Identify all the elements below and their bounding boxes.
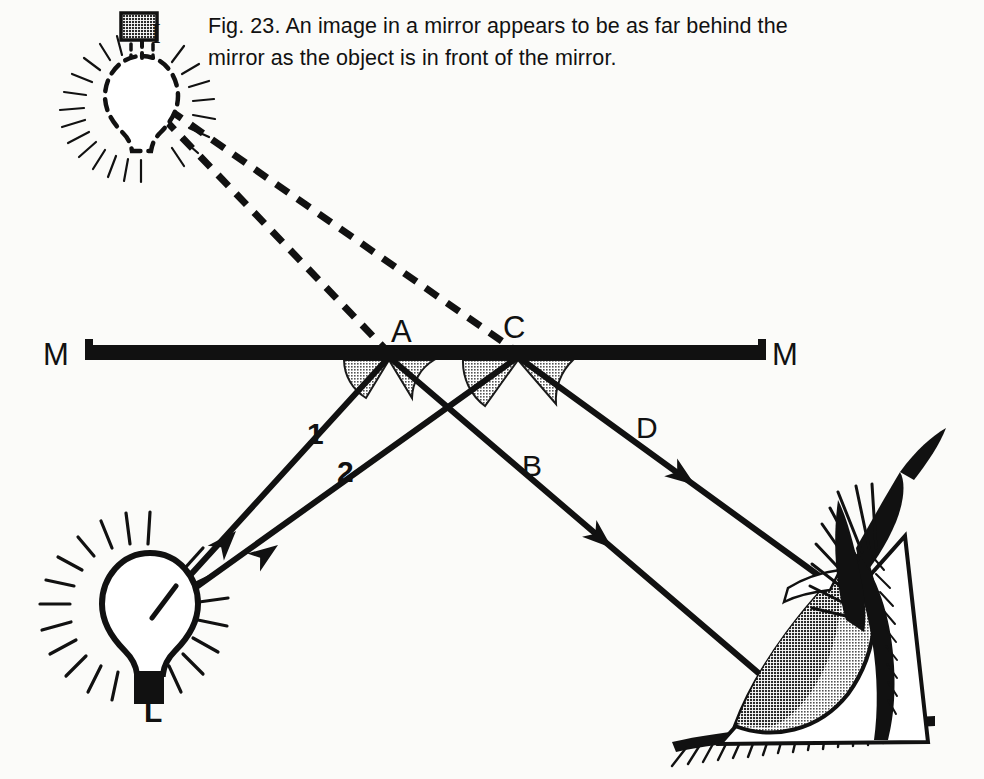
label-source-bulb: L <box>144 695 162 728</box>
lightbulb-icon <box>40 512 228 704</box>
label-ray-d: D <box>636 411 658 444</box>
label-ray-2: 2 <box>337 455 354 488</box>
label-mirror-right: M <box>772 337 798 372</box>
label-image-bulb: I <box>151 16 161 49</box>
mirror-bar-icon <box>85 339 766 360</box>
arrowhead-icon-ray2 <box>247 536 284 571</box>
eye-icon <box>672 428 946 766</box>
label-ray-b: B <box>522 449 542 482</box>
light-rays-group <box>153 357 836 700</box>
virtual-ray-to-a <box>146 100 389 353</box>
angle-incidence-c <box>463 360 518 406</box>
dashed-lightbulb-icon <box>60 13 215 182</box>
label-ray-1: 1 <box>307 417 324 450</box>
mirror-ray-diagram: I L M M A C 1 2 B D <box>0 0 984 779</box>
label-point-c: C <box>503 310 525 345</box>
label-mirror-left: M <box>43 337 69 372</box>
figure-page: Fig. 23. An image in a mirror appears to… <box>0 0 984 779</box>
label-point-a: A <box>391 314 412 349</box>
